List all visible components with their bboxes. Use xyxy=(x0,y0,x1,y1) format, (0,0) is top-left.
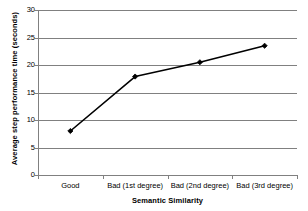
data-point-2 xyxy=(197,60,202,65)
x-axis-title: Semantic Similarity xyxy=(38,196,297,205)
data-series xyxy=(0,0,308,211)
series-line xyxy=(70,46,264,131)
line-chart: Average step performance time (seconds) … xyxy=(0,0,308,211)
data-point-3 xyxy=(262,43,267,48)
